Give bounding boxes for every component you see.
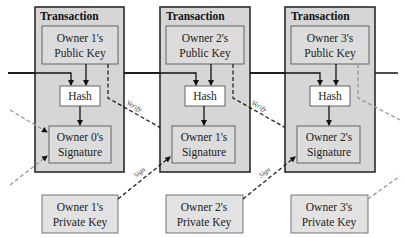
- public-key-owner: Owner 1's: [57, 32, 104, 44]
- public-key-owner: Owner 2's: [182, 32, 229, 44]
- public-key-owner: Owner 3's: [307, 32, 354, 44]
- signature-owner: Owner 1's: [181, 131, 228, 143]
- private-key-3: Owner 3's Private Key: [291, 195, 368, 233]
- private-key-owner: Owner 3's: [306, 201, 353, 213]
- signature-owner: Owner 0's: [57, 131, 104, 143]
- sign-edge-3: [368, 176, 400, 199]
- signature-label: Signature: [182, 146, 226, 159]
- private-key-label: Private Key: [177, 216, 232, 229]
- hash-label: Hash: [193, 90, 217, 102]
- verify-label: Verify: [125, 99, 144, 115]
- transaction-2: Transaction Owner 2's Public Key Hash Ow…: [160, 7, 250, 172]
- signature-owner: Owner 2's: [306, 131, 353, 143]
- signature-label: Signature: [58, 146, 102, 159]
- transaction-title: Transaction: [166, 10, 225, 22]
- public-key-label: Public Key: [304, 47, 356, 60]
- signature-label: Signature: [307, 146, 351, 159]
- transaction-title: Transaction: [291, 10, 350, 22]
- public-key-label: Public Key: [179, 47, 231, 60]
- transaction-3: Transaction Owner 3's Public Key Hash Ow…: [285, 7, 375, 172]
- verify-label: Verify: [250, 99, 269, 115]
- private-key-2: Owner 2's Private Key: [166, 195, 243, 233]
- transaction-title: Transaction: [40, 10, 99, 22]
- private-key-label: Private Key: [302, 216, 357, 229]
- private-key-owner: Owner 1's: [57, 201, 104, 213]
- private-key-1: Owner 1's Private Key: [42, 195, 118, 233]
- public-key-label: Public Key: [54, 47, 106, 60]
- private-key-owner: Owner 2's: [181, 201, 228, 213]
- hash-label: Hash: [68, 90, 92, 102]
- transaction-1: Transaction Owner 1's Public Key Hash Ow…: [35, 7, 124, 172]
- hash-label: Hash: [318, 90, 342, 102]
- transaction-chain-diagram: Transaction Owner 1's Public Key Hash Ow…: [0, 0, 405, 237]
- private-key-label: Private Key: [53, 216, 108, 229]
